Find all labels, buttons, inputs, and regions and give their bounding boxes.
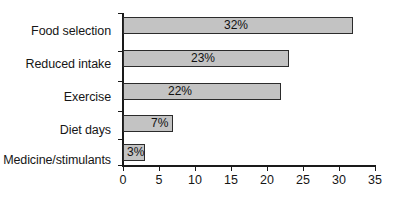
category-label-reduced-intake: Reduced intake [0,57,111,71]
bar-value-reduced-intake: 23% [191,52,215,65]
category-axis-labels: Food selection Reduced intake Exercise D… [0,13,118,165]
category-label-exercise: Exercise [0,90,111,104]
category-label-food-selection: Food selection [0,24,111,38]
x-axis-tick [339,165,340,171]
category-label-diet-days: Diet days [0,123,111,137]
plot-area: 32% 23% 22% 7% 3% 0 5 10 15 20 25 30 35 [123,13,375,165]
x-axis-tick [231,165,232,171]
y-axis-tick [118,81,124,82]
x-axis-tick [375,165,376,171]
bar-exercise[interactable] [123,83,281,100]
x-axis-tick-label-35: 35 [360,173,390,187]
x-axis-tick-label-25: 25 [288,173,318,187]
bar-value-diet-days: 7% [151,117,168,130]
x-axis-tick [123,165,124,171]
x-axis-tick [195,165,196,171]
x-axis-tick-label-20: 20 [252,173,282,187]
x-axis-tick [267,165,268,171]
y-axis-tick [118,13,124,14]
y-axis-tick [118,111,124,112]
category-label-medicine-stimulants: Medicine/stimulants [0,153,111,167]
bar-value-medicine-stimulants: 3% [127,146,144,159]
x-axis-tick-label-10: 10 [180,173,210,187]
x-axis-tick [303,165,304,171]
x-axis-tick-label-0: 0 [108,173,138,187]
x-axis-tick-label-30: 30 [324,173,354,187]
bar-value-food-selection: 32% [224,19,248,32]
bar-chart: Food selection Reduced intake Exercise D… [0,0,393,200]
bar-value-exercise: 22% [168,85,192,98]
y-axis-tick [118,139,124,140]
x-axis-tick-label-15: 15 [216,173,246,187]
x-axis-tick-label-5: 5 [144,173,174,187]
x-axis-tick [159,165,160,171]
